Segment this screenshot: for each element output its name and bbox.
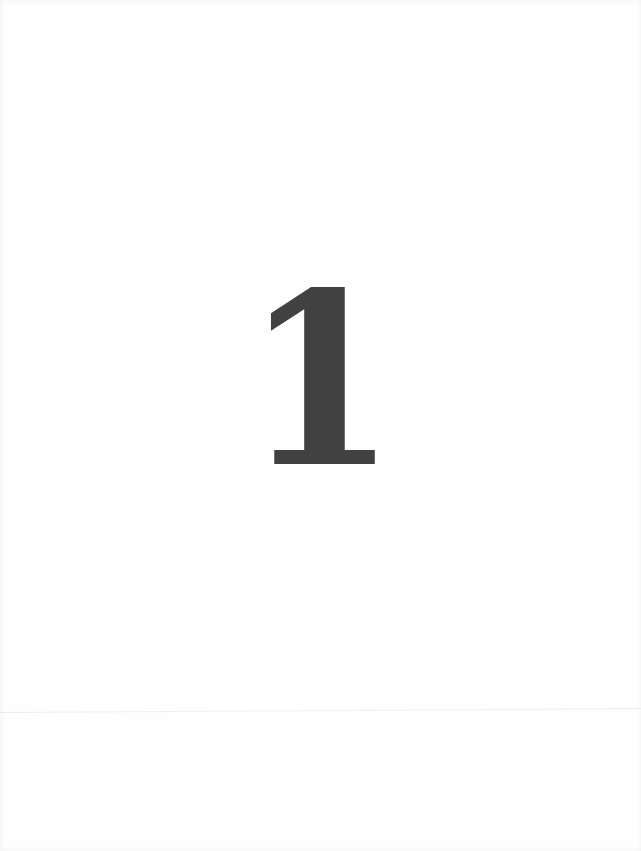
chapter-number: 1 xyxy=(26,262,616,500)
book-page: 1 xyxy=(0,0,641,851)
page-fold-line xyxy=(0,708,641,713)
